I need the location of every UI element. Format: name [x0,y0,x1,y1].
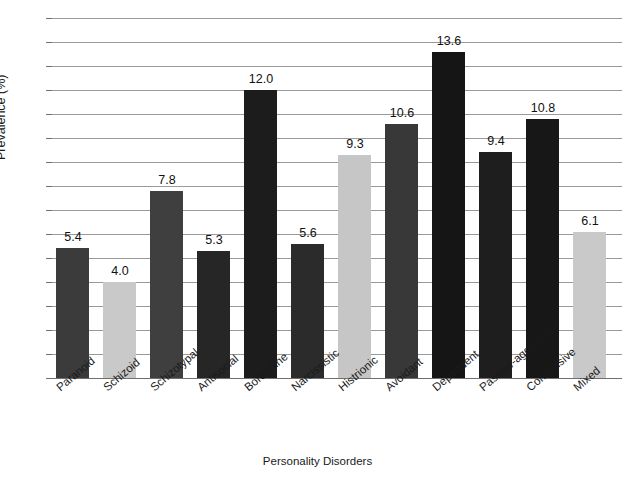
bar-schizotypal[interactable] [150,191,183,378]
gridline-15 [52,18,622,19]
chart-page: Prevalence (%) 15 14 13 12 11 10 9 8 7 6… [0,0,635,479]
tick-mark [46,306,52,307]
bar-dependent[interactable] [432,52,465,378]
tick-mark [46,354,52,355]
bar-value-label: 5.6 [278,227,338,240]
tick-mark [46,138,52,139]
bar-histrionic[interactable] [338,155,371,378]
bar-value-label: 5.3 [184,234,244,247]
tick-mark [46,18,52,19]
bar-value-label: 13.6 [419,35,479,48]
bar-value-label: 7.8 [137,174,197,187]
bar-value-label: 5.4 [43,231,103,244]
tick-mark [46,90,52,91]
bar-passive-aggressive[interactable] [479,152,512,378]
tick-mark [46,378,52,379]
bar-borderline[interactable] [244,90,277,378]
x-axis-title: Personality Disorders [0,455,635,467]
tick-mark [46,114,52,115]
tick-mark [46,42,52,43]
bar-value-label: 4.0 [90,265,150,278]
tick-mark [46,330,52,331]
plot-area: 15 14 13 12 11 10 9 8 7 6 5 4 3 2 1 0 [52,18,622,378]
gridline-13 [52,66,622,67]
bar-value-label: 9.4 [466,135,526,148]
bar-mixed[interactable] [573,232,606,378]
tick-mark [46,282,52,283]
tick-mark [46,162,52,163]
bar-value-label: 10.8 [513,102,573,115]
bar-avoidant[interactable] [385,124,418,378]
tick-mark [46,186,52,187]
y-axis-title: Prevalence (%) [0,75,8,160]
tick-mark [46,66,52,67]
bar-value-label: 12.0 [231,73,291,86]
gridline-14 [52,42,622,43]
tick-mark [46,210,52,211]
tick-mark [46,258,52,259]
bar-value-label: 9.3 [325,138,385,151]
bar-value-label: 6.1 [560,215,620,228]
bar-value-label: 10.6 [372,107,432,120]
gridline-12 [52,90,622,91]
